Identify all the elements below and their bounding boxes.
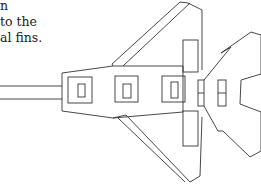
rocket-diagram (0, 0, 261, 189)
